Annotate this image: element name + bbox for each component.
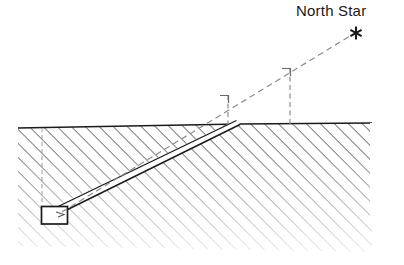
drop-line-right xyxy=(282,68,291,124)
diagram-canvas xyxy=(0,0,404,265)
burial-chamber xyxy=(42,207,68,225)
north-star-shaft-diagram: North Star xyxy=(0,0,404,265)
drop-line-left xyxy=(220,95,229,124)
star-icon xyxy=(350,27,361,40)
north-star-label: North Star xyxy=(296,2,366,20)
